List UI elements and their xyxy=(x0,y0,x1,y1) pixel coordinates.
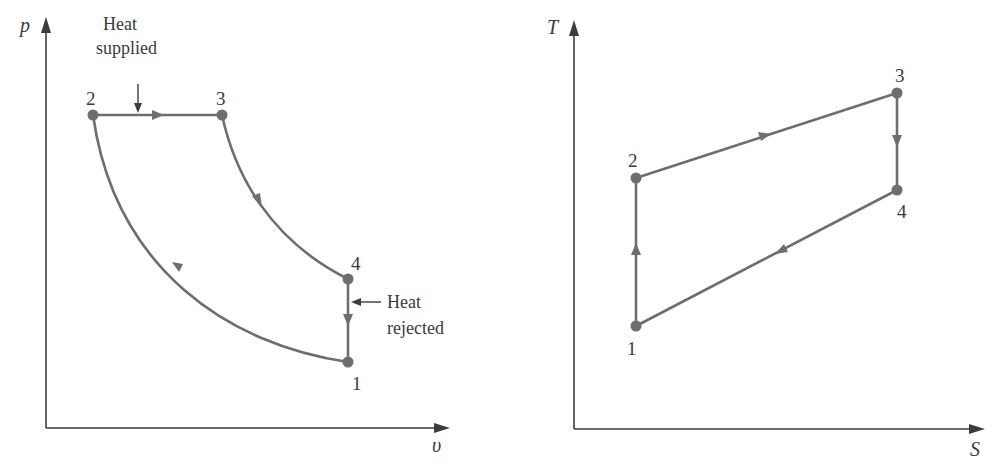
pv-y-axis-label: p xyxy=(18,14,30,37)
ts-arrow-4-1 xyxy=(775,244,788,254)
pv-y-axis-arrowhead xyxy=(41,17,51,33)
ts-point-3-label: 3 xyxy=(895,65,905,86)
ts-point-2 xyxy=(631,173,642,184)
ts-point-2-label: 2 xyxy=(628,150,638,171)
pv-point-2-label: 2 xyxy=(86,88,96,109)
pv-point-4 xyxy=(343,274,354,285)
heat-supplied-label-line2: supplied xyxy=(96,38,157,58)
pv-point-3 xyxy=(217,110,228,121)
pv-point-3-label: 3 xyxy=(216,88,226,109)
pv-arrow-1-2 xyxy=(172,262,183,272)
pv-point-4-label: 4 xyxy=(351,253,361,274)
ts-point-3 xyxy=(892,88,903,99)
pv-process-3-4 xyxy=(222,115,348,279)
ts-point-1 xyxy=(631,321,642,332)
pv-arrow-4-1 xyxy=(343,314,353,326)
ts-arrow-3-4 xyxy=(892,135,902,147)
ts-arrow-1-2 xyxy=(631,243,641,255)
ts-point-4-label: 4 xyxy=(897,201,907,222)
pv-point-2 xyxy=(88,110,99,121)
ts-x-axis-arrowhead xyxy=(969,424,985,434)
pv-process-1-2 xyxy=(93,115,348,362)
pv-arrow-2-3 xyxy=(152,110,164,120)
ts-diagram: T S 2 3 4 1 xyxy=(547,16,985,460)
diesel-cycle-figure: p υ 2 3 4 1 Heat supplied Heat rejec xyxy=(0,0,998,468)
pv-diagram: p υ 2 3 4 1 Heat supplied Heat rejec xyxy=(18,14,450,456)
pv-point-1-label: 1 xyxy=(352,373,362,394)
heat-rejected-label-line1: Heat xyxy=(387,292,421,312)
pv-x-axis-label: υ xyxy=(432,434,441,456)
ts-x-axis-label: S xyxy=(970,438,980,460)
ts-y-axis-label: T xyxy=(547,16,560,38)
heat-supplied-label-line1: Heat xyxy=(103,14,137,34)
pv-point-1 xyxy=(343,357,354,368)
pv-x-axis-arrowhead xyxy=(434,423,450,433)
heat-rejected-label-line2: rejected xyxy=(387,318,444,338)
heat-supplied-pointer-head xyxy=(134,103,142,113)
heat-rejected-pointer-head xyxy=(351,298,361,306)
ts-y-axis-arrowhead xyxy=(569,20,579,36)
ts-point-1-label: 1 xyxy=(627,338,637,359)
ts-point-4 xyxy=(892,185,903,196)
ts-process-4-1 xyxy=(636,190,897,326)
